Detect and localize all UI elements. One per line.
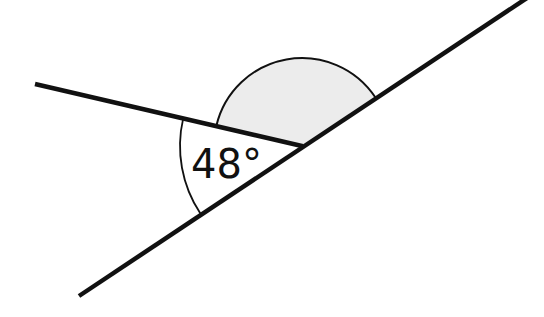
angle-diagram: 48° [0,0,544,317]
straight-line [79,0,530,296]
known-angle-label: 48° [191,141,262,187]
